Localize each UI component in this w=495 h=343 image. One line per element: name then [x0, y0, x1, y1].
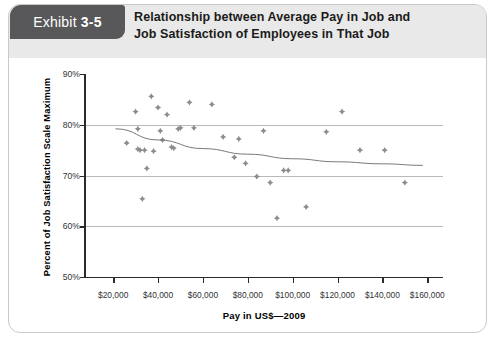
- data-point: [155, 104, 161, 110]
- data-point: [135, 126, 141, 132]
- data-points: [124, 93, 408, 221]
- data-point: [159, 137, 165, 143]
- x-tick-mark: [203, 278, 204, 283]
- y-tick-label: 90%: [46, 69, 80, 79]
- data-point: [144, 165, 150, 171]
- data-point: [274, 215, 280, 221]
- data-point: [141, 147, 147, 153]
- y-axis-line: [84, 74, 86, 278]
- x-axis-title: Pay in US$—2009: [84, 310, 444, 321]
- exhibit-figure: Exhibit 3-5 Relationship between Average…: [0, 0, 495, 343]
- x-tick-mark: [158, 278, 159, 283]
- data-point: [323, 129, 329, 135]
- data-point: [168, 144, 174, 150]
- data-point: [148, 93, 154, 99]
- data-point: [171, 145, 177, 151]
- data-point: [254, 173, 260, 179]
- data-point: [137, 147, 143, 153]
- data-point: [220, 134, 226, 140]
- y-tick-label: 60%: [46, 221, 80, 231]
- x-tick-mark: [293, 278, 294, 283]
- x-tick-label: $160,000: [397, 290, 457, 300]
- gridline: [84, 176, 443, 177]
- data-point: [281, 167, 287, 173]
- y-tick-label: 80%: [46, 120, 80, 130]
- data-point: [303, 204, 309, 210]
- x-tick-mark: [113, 278, 114, 283]
- x-tick-mark: [248, 278, 249, 283]
- x-tick-mark: [382, 278, 383, 283]
- data-point: [133, 108, 139, 114]
- scatter-plot: Percent of Job Satisfaction Scale Maximu…: [0, 0, 495, 343]
- data-point: [285, 167, 291, 173]
- data-point: [339, 108, 345, 114]
- data-point: [175, 126, 181, 132]
- data-point: [124, 140, 130, 146]
- x-axis-line: [84, 277, 443, 279]
- x-tick-mark: [338, 278, 339, 283]
- data-point: [209, 101, 215, 107]
- data-point: [357, 147, 363, 153]
- gridline: [84, 226, 443, 227]
- data-point: [186, 99, 192, 105]
- data-point: [157, 128, 163, 134]
- y-tick-label: 70%: [46, 171, 80, 181]
- data-point: [242, 160, 248, 166]
- trend-line: [115, 129, 422, 166]
- data-point: [150, 148, 156, 154]
- data-point: [382, 147, 388, 153]
- data-point: [402, 180, 408, 186]
- data-point: [164, 112, 170, 118]
- data-point: [139, 196, 145, 202]
- y-tick-label: 50%: [46, 272, 80, 282]
- data-point: [135, 146, 141, 152]
- x-tick-mark: [427, 278, 428, 283]
- data-point: [267, 180, 273, 186]
- data-point: [236, 136, 242, 142]
- gridline: [84, 125, 443, 126]
- data-point: [231, 154, 237, 160]
- data-point: [260, 128, 266, 134]
